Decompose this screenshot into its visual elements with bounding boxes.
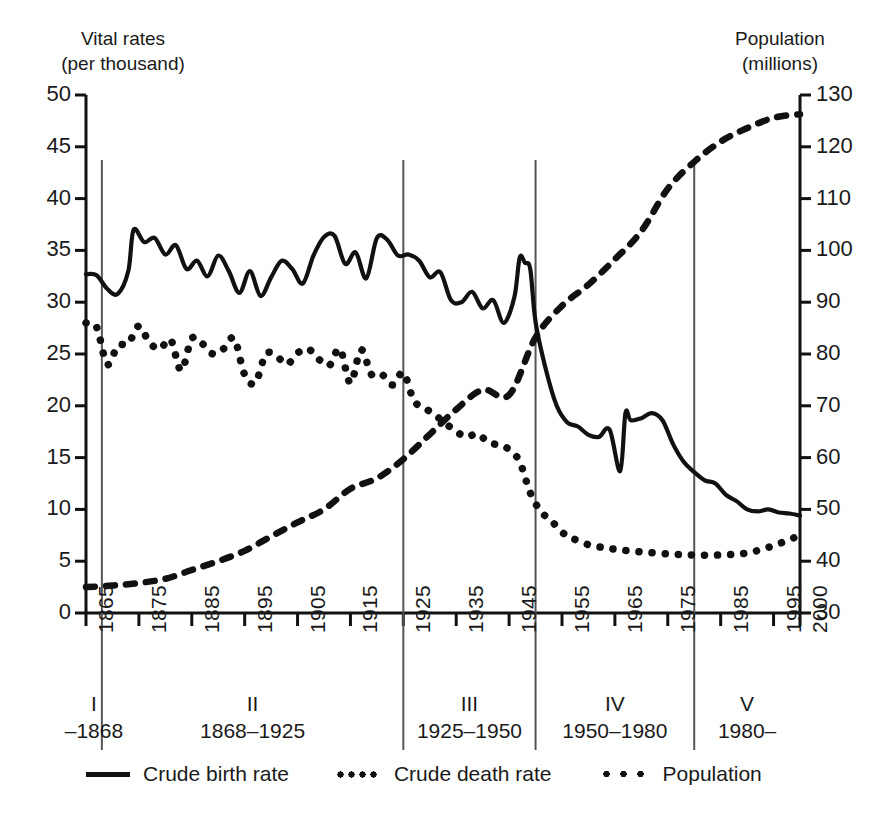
y-tick-label-right: 110	[816, 187, 868, 209]
legend-label-birth: Crude birth rate	[143, 762, 289, 786]
chart-legend: Crude birth rate Crude death rate Popula…	[86, 762, 846, 786]
x-tick-label: 1915	[358, 585, 382, 633]
y-tick-label-right: 60	[816, 446, 868, 468]
x-tick-label: 1905	[306, 585, 330, 633]
y-tick-label-left: 35	[25, 238, 71, 260]
y-tick-label-left: 5	[25, 549, 71, 571]
series-line-crude-death-rate	[86, 323, 800, 556]
y-tick-label-right: 130	[816, 83, 868, 105]
legend-label-death: Crude death rate	[394, 762, 552, 786]
y-tick-label-left: 40	[25, 187, 71, 209]
y-tick-label-left: 10	[25, 497, 71, 519]
period-label-ii: II1868–1925	[153, 690, 353, 744]
y-tick-label-left: 15	[25, 446, 71, 468]
period-label-v: V1980–	[647, 690, 847, 744]
dotted-line-icon	[335, 771, 381, 778]
x-tick-label: 2000	[808, 585, 832, 633]
solid-line-icon	[86, 772, 130, 777]
y-tick-label-left: 20	[25, 394, 71, 416]
y-tick-label-left: 25	[25, 342, 71, 364]
x-tick-label: 1945	[517, 585, 541, 633]
series-line-crude-birth-rate	[86, 229, 800, 516]
y-tick-label-right: 80	[816, 342, 868, 364]
y-tick-label-right: 90	[816, 290, 868, 312]
x-tick-label: 1975	[676, 585, 700, 633]
x-tick-label: 1935	[464, 585, 488, 633]
x-tick-label: 1925	[411, 585, 435, 633]
x-tick-label: 1895	[253, 585, 277, 633]
y-tick-label-left: 45	[25, 135, 71, 157]
chart-figure: Vital rates (per thousand) Population (m…	[0, 0, 875, 815]
series-line-population	[86, 114, 800, 587]
x-tick-label: 1985	[729, 585, 753, 633]
y-tick-label-right: 70	[816, 394, 868, 416]
y-tick-label-left: 0	[25, 601, 71, 623]
y-tick-label-right: 50	[816, 497, 868, 519]
y-tick-label-right: 100	[816, 238, 868, 260]
legend-item-population: Population	[598, 762, 762, 786]
period-numeral: V	[647, 690, 847, 717]
y-tick-label-left: 30	[25, 290, 71, 312]
x-tick-label: 1865	[94, 585, 118, 633]
legend-item-birth: Crude birth rate	[86, 762, 289, 786]
y-tick-label-right: 40	[816, 549, 868, 571]
period-numeral: II	[153, 690, 353, 717]
y-tick-label-right: 120	[816, 135, 868, 157]
x-tick-label: 1955	[570, 585, 594, 633]
y-tick-label-left: 50	[25, 83, 71, 105]
dashed-line-icon	[598, 771, 650, 777]
x-tick-label: 1995	[782, 585, 806, 633]
period-range: 1868–1925	[153, 717, 353, 744]
x-tick-label: 1965	[623, 585, 647, 633]
x-tick-label: 1885	[200, 585, 224, 633]
x-tick-label: 1875	[147, 585, 171, 633]
legend-label-population: Population	[663, 762, 762, 786]
period-range: 1980–	[647, 717, 847, 744]
legend-item-death: Crude death rate	[335, 762, 552, 786]
